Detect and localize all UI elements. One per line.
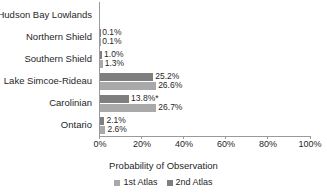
bar-1st-atlas	[100, 82, 156, 90]
bar-group: 0.1% 0.1%	[100, 26, 311, 48]
bar-row: 1.3%	[100, 60, 311, 68]
x-tick-label: 20%	[133, 140, 151, 149]
category-axis-line	[99, 136, 311, 137]
x-tick-label: 80%	[259, 140, 277, 149]
bar-row: 13.8%*	[100, 95, 311, 103]
legend-item-2nd-atlas: 2nd Atlas	[167, 178, 213, 187]
bar-row: 25.2%	[100, 73, 311, 81]
bar-1st-atlas	[100, 126, 105, 134]
bar-row: 26.7%	[100, 104, 311, 112]
x-tick-label: 40%	[175, 140, 193, 149]
category-axis-labels: Hudson Bay Lowlands Northern Shield Sout…	[0, 4, 96, 136]
bar-group: 2.1% 2.6%	[100, 114, 311, 136]
bar-row: 0.1%	[100, 38, 311, 46]
bars-container: 0.1% 0.1% 1.0% 1.3%	[100, 4, 311, 136]
bar-row: 2.1%	[100, 117, 311, 125]
bar-2nd-atlas	[100, 117, 104, 125]
bar-chart: Hudson Bay Lowlands Northern Shield Sout…	[0, 0, 327, 195]
legend-label: 1st Atlas	[123, 178, 157, 187]
bar-row: 2.6%	[100, 126, 311, 134]
bar-row: 1.0%	[100, 51, 311, 59]
bar-group: 25.2% 26.6%	[100, 70, 311, 92]
legend-item-1st-atlas: 1st Atlas	[114, 178, 157, 187]
x-axis-title: Probability of Observation	[0, 160, 327, 171]
bar-value-label: 26.7%	[158, 103, 182, 112]
bar-value-label: 2.6%	[107, 125, 126, 134]
bar-value-label: 0.1%	[102, 37, 121, 46]
bar-2nd-atlas	[100, 95, 129, 103]
category-label: Southern Shield	[0, 48, 96, 70]
x-tick-label: 100%	[298, 140, 321, 149]
bar-1st-atlas	[100, 104, 156, 112]
bar-value-label: 26.6%	[158, 81, 182, 90]
category-label: Carolinian	[0, 92, 96, 114]
bar-2nd-atlas	[100, 73, 153, 81]
bar-group: 13.8%* 26.7%	[100, 92, 311, 114]
category-label: Northern Shield	[0, 26, 96, 48]
bar-2nd-atlas	[100, 51, 102, 59]
legend: 1st Atlas 2nd Atlas	[0, 178, 327, 187]
bar-row: 0.1%	[100, 29, 311, 37]
x-tick-label: 0%	[93, 140, 106, 149]
bar-value-label: 1.3%	[105, 59, 124, 68]
plot-area: Hudson Bay Lowlands Northern Shield Sout…	[0, 0, 327, 140]
category-label: Lake Simcoe-Rideau	[0, 70, 96, 92]
bar-row	[100, 7, 311, 15]
x-tick-label: 60%	[217, 140, 235, 149]
legend-swatch-icon	[114, 180, 120, 186]
legend-label: 2nd Atlas	[176, 178, 213, 187]
category-label: Hudson Bay Lowlands	[0, 4, 96, 26]
bar-group: 1.0% 1.3%	[100, 48, 311, 70]
category-label: Ontario	[0, 114, 96, 136]
bar-value-label: 13.8%*	[131, 94, 158, 103]
value-axis-ticks: 0% 20% 40% 60% 80% 100%	[100, 140, 311, 154]
bar-row	[100, 16, 311, 24]
legend-swatch-icon	[167, 180, 173, 186]
bar-1st-atlas	[100, 60, 103, 68]
bar-row: 26.6%	[100, 82, 311, 90]
bar-group	[100, 4, 311, 26]
